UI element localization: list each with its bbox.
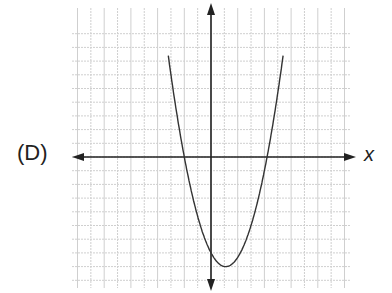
parabola-curve (168, 56, 283, 267)
coordinate-plane (0, 0, 392, 293)
axes (72, 3, 356, 291)
